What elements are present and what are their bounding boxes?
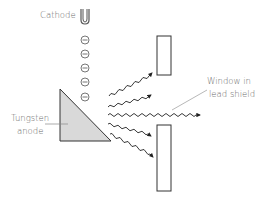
cathode-icon xyxy=(81,9,89,24)
electrons xyxy=(81,36,89,101)
xray-arrow-icon xyxy=(108,123,151,136)
xray-arrow-icon xyxy=(108,114,200,117)
xray-arrow-icon xyxy=(108,95,151,107)
xray-arrow-icon xyxy=(109,73,152,96)
electron-icon xyxy=(81,93,89,101)
lead-shield-upper xyxy=(157,36,171,75)
xray-tube-diagram xyxy=(0,0,264,200)
lead-shield-lower xyxy=(157,125,171,191)
electron-icon xyxy=(81,36,89,44)
electron-icon xyxy=(81,50,89,58)
electron-icon xyxy=(81,78,89,86)
xray-arrows xyxy=(108,73,200,157)
electron-icon xyxy=(81,64,89,72)
window-leader-line xyxy=(172,90,207,110)
xray-arrow-icon xyxy=(110,133,153,157)
